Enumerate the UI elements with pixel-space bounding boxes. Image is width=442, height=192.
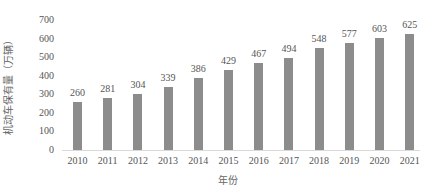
bar-chart: 机动车保有量（万辆） 年份 01002003004005006007002602… (0, 0, 442, 192)
bar-value-label: 603 (365, 24, 395, 34)
bar (254, 63, 263, 150)
x-axis-line (62, 150, 420, 151)
bar-value-label: 339 (153, 73, 183, 83)
bar-value-label: 260 (63, 88, 93, 98)
x-tick-label: 2013 (153, 156, 183, 166)
x-tick-label: 2020 (365, 156, 395, 166)
bar (133, 94, 142, 150)
x-tick-label: 2014 (183, 156, 213, 166)
bar-value-label: 548 (304, 34, 334, 44)
bar (315, 48, 324, 150)
x-axis-label: 年份 (218, 172, 238, 187)
x-tick-label: 2015 (214, 156, 244, 166)
y-axis-label: 机动车保有量（万辆） (0, 35, 15, 135)
bar-value-label: 577 (334, 29, 364, 39)
bar (224, 70, 233, 150)
bar-value-label: 467 (244, 49, 274, 59)
x-tick-label: 2012 (123, 156, 153, 166)
bar (345, 43, 354, 150)
y-tick-label: 400 (24, 71, 54, 81)
bar (375, 38, 384, 150)
bar-value-label: 625 (395, 20, 425, 30)
x-tick-label: 2011 (93, 156, 123, 166)
bar (164, 87, 173, 150)
bar (73, 102, 82, 150)
y-tick-label: 100 (24, 126, 54, 136)
bar (194, 78, 203, 150)
bar (405, 34, 414, 150)
y-tick-label: 0 (24, 145, 54, 155)
x-tick-label: 2016 (244, 156, 274, 166)
y-tick-label: 600 (24, 34, 54, 44)
x-tick-label: 2019 (334, 156, 364, 166)
bar-value-label: 281 (93, 84, 123, 94)
bar (284, 58, 293, 150)
bar-value-label: 386 (183, 64, 213, 74)
y-tick-label: 300 (24, 89, 54, 99)
bar-value-label: 494 (274, 44, 304, 54)
bar-value-label: 304 (123, 80, 153, 90)
x-tick-label: 2010 (63, 156, 93, 166)
bar-value-label: 429 (214, 56, 244, 66)
y-tick-label: 500 (24, 52, 54, 62)
x-tick-label: 2018 (304, 156, 334, 166)
bar (103, 98, 112, 150)
x-tick-label: 2021 (395, 156, 425, 166)
y-tick-label: 700 (24, 15, 54, 25)
x-tick-label: 2017 (274, 156, 304, 166)
y-tick-label: 200 (24, 108, 54, 118)
